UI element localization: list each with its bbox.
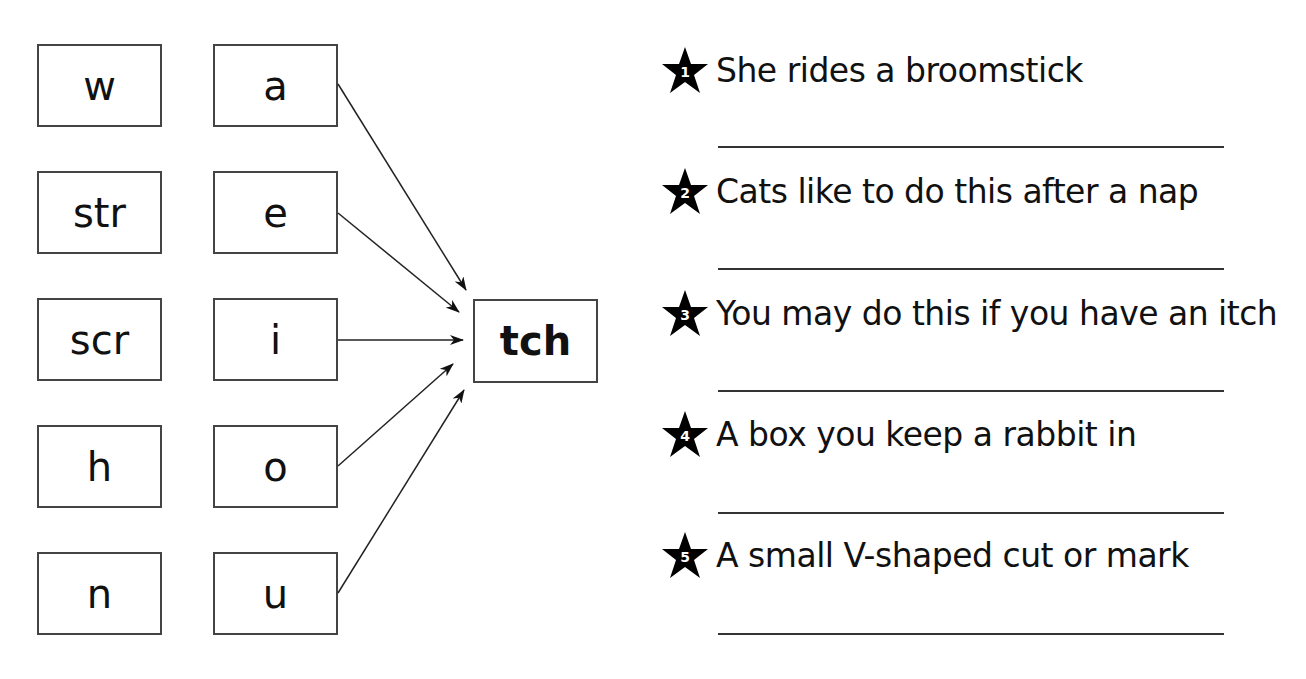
answer-line-5[interactable] bbox=[718, 633, 1224, 635]
star-icon: 2 bbox=[660, 166, 710, 216]
clue-number: 2 bbox=[660, 166, 710, 220]
answer-line-3[interactable] bbox=[718, 390, 1224, 392]
clue-text: A box you keep a rabbit in bbox=[716, 415, 1136, 454]
clue-number: 5 bbox=[660, 530, 710, 584]
clue-number: 3 bbox=[660, 288, 710, 342]
clue-number: 1 bbox=[660, 45, 710, 99]
clue-5: 5 A small V-shaped cut or mark bbox=[660, 530, 1189, 580]
clue-4: 4 A box you keep a rabbit in bbox=[660, 409, 1136, 459]
clue-1: 1 She rides a broomstick bbox=[660, 45, 1083, 95]
star-icon: 5 bbox=[660, 530, 710, 580]
clue-3: 3 You may do this if you have an itch bbox=[660, 288, 1277, 338]
answer-line-4[interactable] bbox=[718, 512, 1224, 514]
star-icon: 3 bbox=[660, 288, 710, 338]
clue-text: She rides a broomstick bbox=[716, 51, 1083, 90]
star-icon: 1 bbox=[660, 45, 710, 95]
answer-line-1[interactable] bbox=[718, 146, 1224, 148]
answer-line-2[interactable] bbox=[718, 268, 1224, 270]
clue-text: Cats like to do this after a nap bbox=[716, 172, 1198, 211]
clue-number: 4 bbox=[660, 409, 710, 463]
clue-text: A small V-shaped cut or mark bbox=[716, 536, 1189, 575]
clue-2: 2 Cats like to do this after a nap bbox=[660, 166, 1198, 216]
clue-text: You may do this if you have an itch bbox=[716, 294, 1277, 333]
star-icon: 4 bbox=[660, 409, 710, 459]
